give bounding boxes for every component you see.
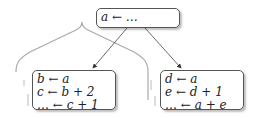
- root-node: a ← …: [96, 8, 180, 28]
- root-line: a ← …: [101, 11, 175, 24]
- right-line-3: … ← a + e: [165, 99, 239, 112]
- left-line-3: … ← c + 1: [37, 99, 111, 112]
- right-node: d ← a e ← d + 1 … ← a + e: [160, 70, 244, 110]
- left-node: b ← a c ← b + 2 … ← c + 1: [32, 70, 116, 110]
